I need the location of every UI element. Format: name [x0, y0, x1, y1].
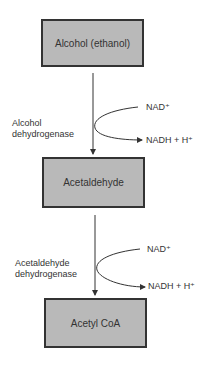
- node-acetyl-coa: Acetyl CoA: [44, 298, 147, 348]
- cofactor-arrow-2: [97, 249, 145, 287]
- node-ethanol: Alcohol (ethanol): [41, 19, 144, 67]
- enzyme-line-2: dehydrogenase: [15, 269, 77, 280]
- enzyme-label-1: Alcohol dehydrogenase: [12, 118, 74, 140]
- enzyme-line-1: Acetaldehyde: [15, 258, 77, 269]
- cofactor-out-2: NADH + H⁺: [148, 281, 195, 292]
- node-label: Acetaldehyde: [63, 177, 124, 188]
- enzyme-line-2: dehydrogenase: [12, 129, 74, 140]
- node-label: Acetyl CoA: [71, 318, 120, 329]
- enzyme-label-2: Acetaldehyde dehydrogenase: [15, 258, 77, 280]
- cofactor-out-1: NADH + H⁺: [146, 135, 193, 146]
- cofactor-arrow-1: [95, 107, 142, 140]
- node-acetaldehyde: Acetaldehyde: [42, 157, 145, 208]
- enzyme-line-1: Alcohol: [12, 118, 74, 129]
- cofactor-in-2: NAD⁺: [147, 244, 171, 255]
- cofactor-in-1: NAD⁺: [146, 102, 170, 113]
- node-label: Alcohol (ethanol): [55, 38, 130, 49]
